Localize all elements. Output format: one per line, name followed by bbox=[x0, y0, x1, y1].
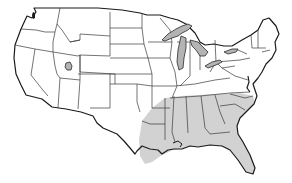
lake-huron bbox=[190, 40, 208, 56]
lake-superior bbox=[162, 24, 192, 41]
us-map-svg bbox=[0, 0, 292, 183]
chesapeake-bay bbox=[247, 76, 250, 92]
great-salt-lake bbox=[65, 62, 72, 70]
lake-michigan bbox=[177, 36, 186, 70]
us-map: United States map bbox=[0, 0, 292, 183]
lake-ontario bbox=[224, 49, 238, 54]
